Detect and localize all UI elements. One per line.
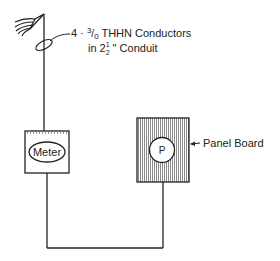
meter-label: Meter xyxy=(33,146,61,158)
panel-board: P xyxy=(137,118,189,182)
panel-board-callout: Panel Board xyxy=(190,137,264,149)
callout-leader-line xyxy=(50,34,70,41)
weatherhead-icon xyxy=(15,14,44,36)
diagram-canvas: 4 · 3/0 THHN Conductors in 212 " Conduit… xyxy=(0,0,280,261)
conductor-callout-line2: in 212 " Conduit xyxy=(88,41,158,56)
arrow-left-icon xyxy=(190,142,195,147)
conductor-callout-line1: 4 · 3/0 THHN Conductors xyxy=(71,26,192,41)
meter-box: Meter xyxy=(25,131,69,173)
panel-board-label: Panel Board xyxy=(203,137,264,149)
riser-diagram: 4 · 3/0 THHN Conductors in 212 " Conduit… xyxy=(0,0,280,261)
panel-symbol-label: P xyxy=(159,145,166,156)
